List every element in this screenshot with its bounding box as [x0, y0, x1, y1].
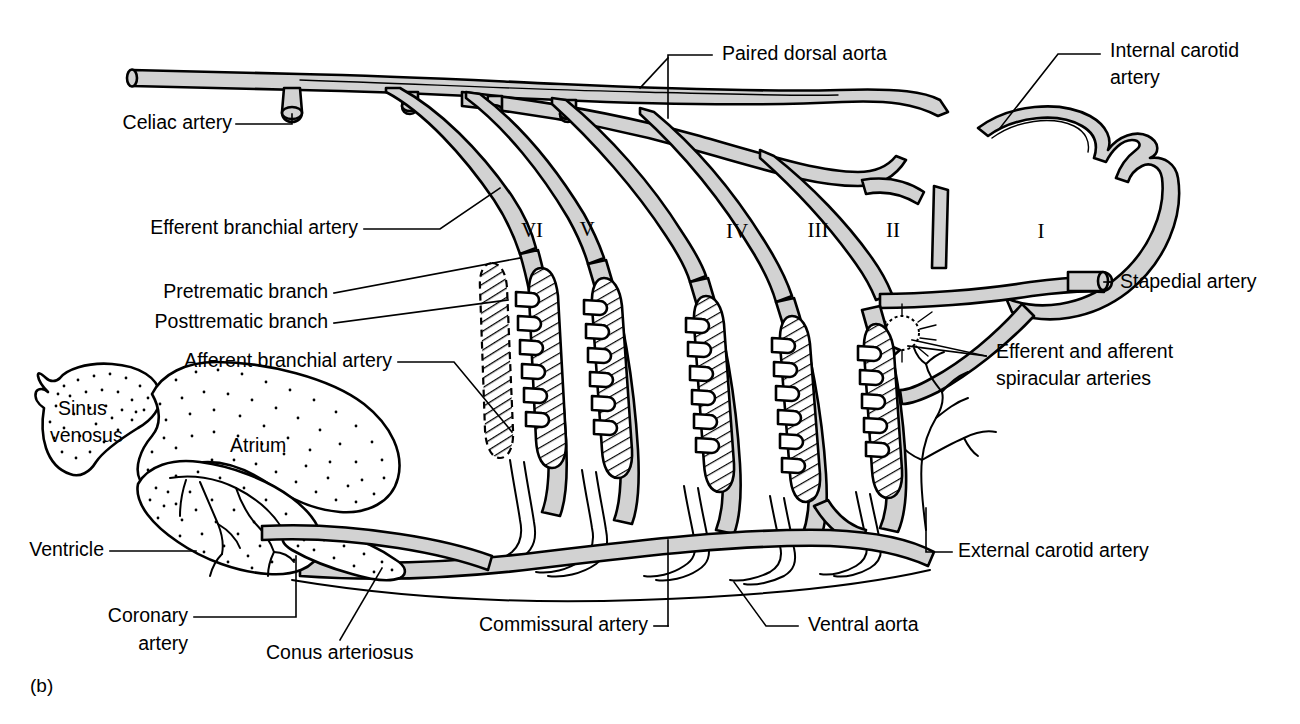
arch-numeral-VI: VI [521, 218, 543, 242]
arch-numeral-III: III [808, 218, 829, 242]
label-coronary-artery-line2: artery [138, 632, 188, 654]
label-external-carotid-artery: External carotid artery [958, 539, 1149, 561]
arch-numeral-II: II [886, 218, 900, 242]
label-paired-dorsal-aorta: Paired dorsal aorta [722, 42, 887, 64]
leader-efferent-branchial-artery [364, 188, 500, 229]
leader-external-carotid-artery [926, 508, 952, 552]
arch-numeral-I: I [1038, 219, 1045, 243]
label-sinus-venosus-line2: venosus [50, 424, 123, 446]
label-internal-carotid-artery-line1: Internal carotid [1110, 39, 1239, 61]
label-ventricle: Ventricle [29, 538, 104, 560]
gill-hemibranch-VI-anterior [480, 263, 513, 458]
arch-numeral-IV: IV [726, 219, 748, 243]
label-conus-arteriosus: Conus arteriosus [266, 641, 414, 663]
leader-ventral-aorta [734, 582, 798, 626]
label-atrium: Atrium [230, 434, 286, 456]
anatomical-diagram: Celiac artery Paired dorsal aorta Intern… [0, 0, 1300, 724]
label-ventral-aorta: Ventral aorta [808, 613, 919, 635]
label-spiracular-arteries-line1: Efferent and afferent [996, 340, 1174, 362]
label-stapedial-artery: Stapedial artery [1120, 270, 1257, 292]
label-commissural-artery: Commissural artery [479, 613, 648, 635]
stapedial-artery-cut-end [1098, 272, 1108, 290]
label-posttrematic-branch: Posttrematic branch [155, 310, 328, 332]
label-efferent-branchial-artery: Efferent branchial artery [150, 216, 358, 238]
aortic-arch-II-fork [862, 179, 948, 269]
panel-identifier: (b) [30, 675, 53, 696]
dorsal-aorta-cut-end [127, 70, 137, 87]
label-internal-carotid-artery-line2: artery [1110, 66, 1160, 88]
label-celiac-artery: Celiac artery [123, 111, 233, 133]
label-afferent-branchial-artery: Afferent branchial artery [184, 349, 392, 371]
label-pretrematic-branch: Pretrematic branch [163, 280, 328, 302]
leader-paired-dorsal-aorta [668, 55, 712, 118]
label-spiracular-arteries-line2: spiracular arteries [996, 367, 1151, 389]
leader-paired-dorsal-aorta-2 [640, 58, 668, 88]
figure-canvas: Celiac artery Paired dorsal aorta Intern… [0, 0, 1300, 724]
label-sinus-venosus-line1: Sinus [58, 397, 107, 419]
arch-numeral-V: V [579, 217, 594, 241]
label-coronary-artery-line1: Coronary [108, 604, 188, 626]
